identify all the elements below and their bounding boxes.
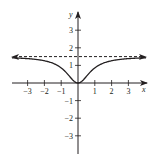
y-tick-label: 3 xyxy=(69,26,73,35)
x-tick-label: −3 xyxy=(23,87,32,96)
x-tick-label: −1 xyxy=(57,87,66,96)
x-axis-label: x xyxy=(141,85,146,94)
x-tick-label: 1 xyxy=(93,87,97,96)
function-graph: x y −3−2−1123 −3−2−1123 xyxy=(0,0,156,154)
y-tick-label: 2 xyxy=(69,44,73,53)
axes: x y xyxy=(12,10,147,154)
x-tick-label: 3 xyxy=(126,87,130,96)
left-arrow-icon xyxy=(11,54,19,60)
y-tick-label: −1 xyxy=(64,97,73,106)
x-tick-label: 2 xyxy=(110,87,114,96)
y-tick-label: −3 xyxy=(64,132,73,141)
y-tick-label: 1 xyxy=(69,61,73,70)
function-curve xyxy=(12,58,146,83)
y-tick-label: −2 xyxy=(64,114,73,123)
y-axis-label: y xyxy=(68,10,73,19)
x-tick-label: −2 xyxy=(40,87,49,96)
